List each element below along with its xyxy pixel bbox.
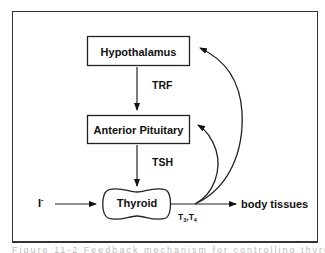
tsh-label: TSH [152,156,173,168]
body-tissues-label: body tissues [241,198,308,210]
anterior-pituitary-node: Anterior Pituitary [88,116,190,144]
hypothalamus-label: Hypothalamus [101,46,177,58]
figure-caption: Figure 11-2 Feedback mechanism for contr… [12,246,325,253]
feedback-arrow-hypothalamus [195,48,242,204]
thyroid-node: Thyroid [103,189,171,220]
thyroid-feedback-diagram: Hypothalamus TRF Anterior Pituitary TSH … [0,0,325,253]
feedback-arrow-pituitary [195,125,218,204]
hypothalamus-node: Hypothalamus [88,37,190,66]
iodide-charge: - [41,196,44,203]
t3-t4-label: T3,T4 [178,212,198,223]
thyroid-label: Thyroid [117,197,157,209]
iodide-label: I- [38,196,44,209]
anterior-pituitary-label: Anterior Pituitary [94,124,185,136]
trf-label: TRF [152,79,173,91]
